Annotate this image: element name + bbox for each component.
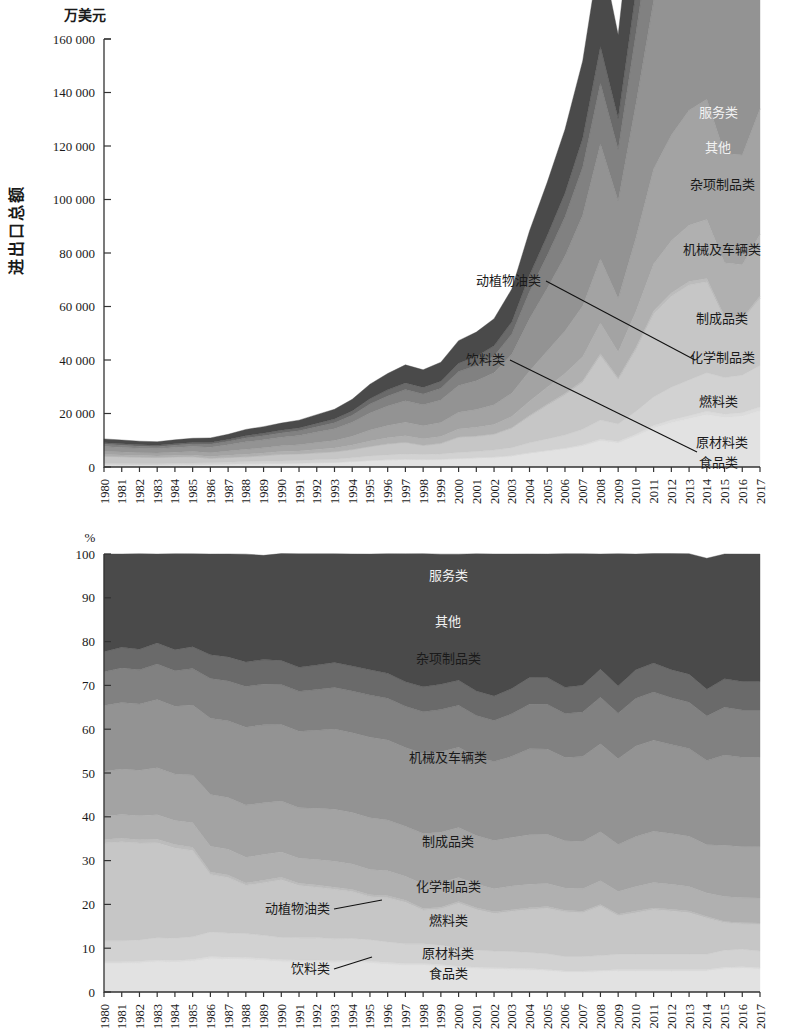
lower-xtick-label-24: 2004 [523,1003,537,1029]
upper-ytick-label-0: 0 [89,460,96,475]
lower-xtick-label-14: 1994 [346,1003,360,1029]
upper-xtick-label-9: 1989 [257,479,271,504]
upper-y-axis-title: 进出口总额 [7,185,26,275]
upper-ytick-label-6: 120 000 [53,139,95,154]
upper-xtick-label-10: 1990 [275,479,289,504]
lower-ytick-label-4: 40 [82,809,95,824]
upper-band-label-8: 食品类 [699,455,738,470]
lower-xtick-label-25: 2005 [541,1004,555,1029]
upper-ytick-label-1: 20 000 [59,406,95,421]
lower-ytick-label-10: 100 [76,547,96,562]
lower-ytick-label-9: 90 [82,590,95,605]
lower-xtick-label-35: 2015 [718,1004,732,1029]
upper-xtick-label-27: 2007 [576,479,590,504]
lower-xtick-label-12: 1992 [310,1004,324,1029]
upper-xtick-label-28: 2008 [594,479,608,504]
lower-xtick-label-31: 2011 [647,1004,661,1029]
lower-xtick-label-10: 1990 [275,1004,289,1029]
upper-band-label-3: 机械及车辆类 [683,242,761,257]
lower-ytick-label-6: 60 [82,722,95,737]
upper-band-label-1: 其他 [705,140,731,155]
upper-xtick-label-0: 1980 [98,479,112,504]
lower-xtick-label-26: 2006 [558,1004,572,1029]
upper-xtick-label-26: 2006 [558,479,572,504]
upper-xtick-label-33: 2013 [683,479,697,504]
lower-unit-label: % [85,530,96,545]
upper-xtick-label-34: 2014 [700,478,714,504]
upper-ytick-label-3: 60 000 [59,299,95,314]
lower-xtick-label-34: 2014 [700,1003,714,1029]
upper-annotation-beverages-label: 饮料类 [466,352,505,367]
figure-container: 020 00040 00060 00080 000100 000120 0001… [0,0,790,1033]
lower-xtick-label-1: 1981 [115,1004,129,1029]
lower-xtick-label-20: 2000 [452,1004,466,1029]
upper-xtick-label-25: 2005 [541,479,555,504]
upper-ytick-label-4: 80 000 [59,246,95,261]
upper-band-label-7: 原材料类 [696,435,748,450]
upper-xtick-label-29: 2009 [612,479,626,504]
upper-xtick-label-11: 1991 [293,479,307,504]
upper-xtick-label-30: 2010 [629,479,643,504]
upper-xtick-label-4: 1984 [168,478,182,504]
lower-xtick-label-30: 2010 [629,1004,643,1029]
lower-band-label-7: 原材料类 [422,946,474,961]
upper-unit-label: 万美元 [63,7,106,23]
lower-xtick-label-37: 2017 [754,1004,768,1029]
lower-xtick-label-36: 2016 [736,1004,750,1029]
upper-xtick-label-21: 2001 [470,479,484,504]
upper-xtick-label-24: 2004 [523,478,537,504]
lower-band-label-3: 机械及车辆类 [409,750,487,765]
upper-xtick-label-18: 1998 [417,479,431,504]
upper-xtick-label-22: 2002 [488,479,502,504]
lower-band-label-8: 食品类 [429,966,468,981]
upper-band-label-6: 燃料类 [699,394,738,409]
lower-xtick-label-23: 2003 [505,1004,519,1029]
upper-xtick-label-13: 1993 [328,479,342,504]
lower-xtick-label-13: 1993 [328,1004,342,1029]
lower-annotation-beverages-label: 饮料类 [291,961,330,976]
lower-ytick-label-8: 80 [82,634,95,649]
lower-xtick-label-27: 2007 [576,1004,590,1029]
lower-band-label-0: 服务类 [429,568,468,583]
upper-xtick-label-1: 1981 [115,479,129,504]
lower-xtick-label-18: 1998 [417,1004,431,1029]
upper-ytick-label-2: 40 000 [59,353,95,368]
lower-xtick-label-19: 1999 [434,1004,448,1029]
upper-xtick-label-14: 1994 [346,478,360,504]
upper-ytick-label-8: 160 000 [53,32,95,47]
stacked-area-figure: 020 00040 00060 00080 000100 000120 0001… [0,0,790,1033]
lower-xtick-label-8: 1988 [239,1004,253,1029]
lower-xtick-label-6: 1986 [204,1004,218,1029]
lower-xtick-label-4: 1984 [168,1003,182,1029]
upper-xtick-label-7: 1987 [222,479,236,504]
lower-xtick-label-0: 1980 [98,1004,112,1029]
lower-xtick-label-7: 1987 [222,1004,236,1029]
upper-xtick-label-5: 1985 [186,479,200,504]
lower-ytick-label-0: 0 [89,985,96,1000]
upper-ytick-label-7: 140 000 [53,85,95,100]
upper-xtick-label-3: 1983 [151,479,165,504]
upper-band-label-4: 制成品类 [696,311,748,326]
upper-band-label-0: 服务类 [699,105,738,120]
upper-xtick-label-31: 2011 [647,479,661,504]
upper-band-label-2: 杂项制品类 [690,177,755,192]
lower-band-label-2: 杂项制品类 [416,651,481,666]
lower-xtick-label-9: 1989 [257,1004,271,1029]
lower-band-label-1: 其他 [435,614,461,629]
lower-xtick-label-11: 1991 [293,1004,307,1029]
upper-xtick-label-6: 1986 [204,479,218,504]
upper-xtick-label-12: 1992 [310,479,324,504]
upper-xtick-label-8: 1988 [239,479,253,504]
lower-ytick-label-5: 50 [82,766,95,781]
lower-xtick-label-2: 1982 [133,1004,147,1029]
upper-xtick-label-35: 2015 [718,479,732,504]
lower-xtick-label-21: 2001 [470,1004,484,1029]
upper-xtick-label-2: 1982 [133,479,147,504]
lower-xtick-label-5: 1985 [186,1004,200,1029]
upper-xtick-label-37: 2017 [754,479,768,504]
upper-annotation-oils-label: 动植物油类 [476,273,541,288]
lower-xtick-label-33: 2013 [683,1004,697,1029]
upper-band-label-5: 化学制品类 [690,350,755,365]
lower-xtick-label-17: 1997 [399,1004,413,1029]
lower-xtick-label-29: 2009 [612,1004,626,1029]
